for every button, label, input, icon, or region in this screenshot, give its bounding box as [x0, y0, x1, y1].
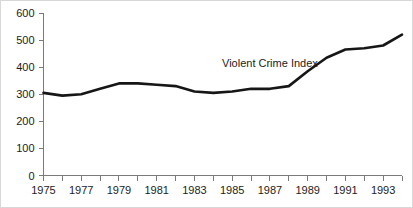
x-tick-label: 1979: [107, 184, 131, 196]
x-tick-label: 1983: [182, 184, 206, 196]
y-tick-label: 300: [16, 88, 34, 100]
x-tick-label: 1987: [258, 184, 282, 196]
x-tick-label: 1981: [144, 184, 168, 196]
y-tick-label: 100: [16, 142, 34, 154]
y-tick-label: 400: [16, 61, 34, 73]
x-tick-label: 1991: [333, 184, 357, 196]
x-tick-label: 1993: [371, 184, 395, 196]
violent-crime-index-line-chart: 0100200300400500600 19751977197919811983…: [0, 0, 413, 208]
x-tick-label: 1977: [69, 184, 93, 196]
x-axis-ticks: 1975197719791981198319851987198919911993: [31, 176, 402, 196]
y-tick-label: 200: [16, 115, 34, 127]
y-axis-ticks: 0100200300400500600: [16, 7, 43, 182]
y-tick-label: 0: [28, 170, 34, 182]
chart-canvas: 0100200300400500600 19751977197919811983…: [1, 1, 413, 208]
y-tick-label: 600: [16, 7, 34, 19]
series-annotation-group: Violent Crime Index: [222, 57, 318, 69]
x-tick-label: 1975: [31, 184, 55, 196]
y-tick-label: 500: [16, 34, 34, 46]
x-tick-label: 1985: [220, 184, 244, 196]
x-tick-label: 1989: [295, 184, 319, 196]
series-label-violent-crime-index: Violent Crime Index: [222, 57, 318, 69]
